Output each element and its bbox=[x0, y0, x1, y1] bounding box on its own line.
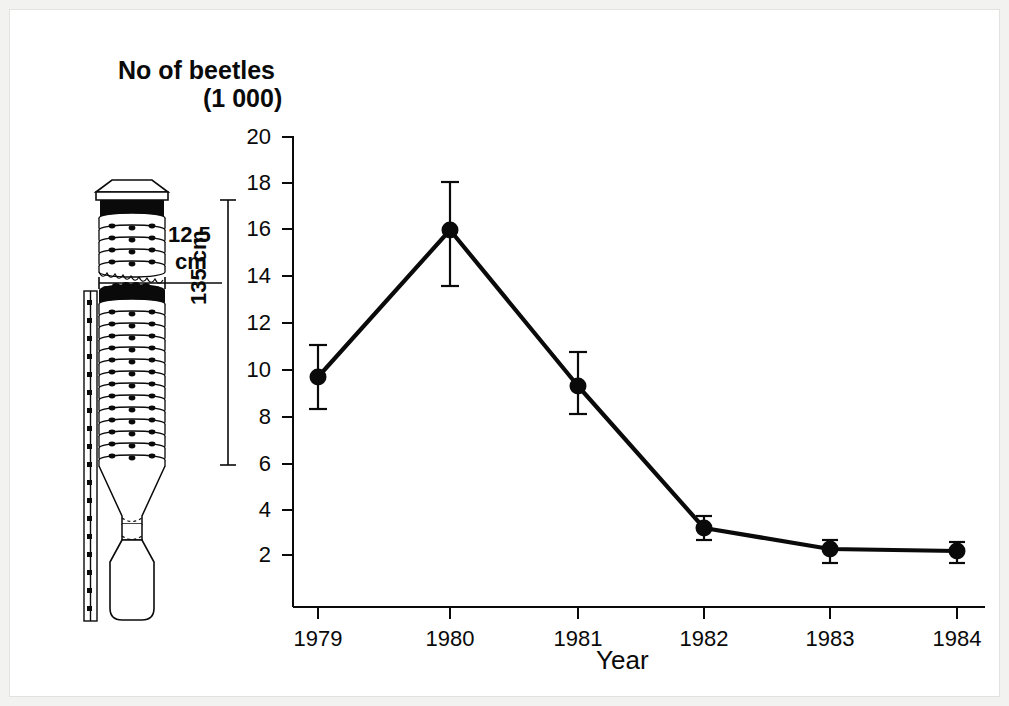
y-tick-label-20: 20 bbox=[231, 124, 271, 150]
trap-collecting-funnel bbox=[99, 466, 165, 524]
y-tick-label-14: 14 bbox=[231, 263, 271, 289]
data-point-1984 bbox=[949, 543, 966, 560]
series-markers bbox=[310, 222, 966, 560]
y-tick-label-18: 18 bbox=[231, 170, 271, 196]
y-tick-label-16: 16 bbox=[231, 216, 271, 242]
data-point-1983 bbox=[822, 541, 839, 558]
data-point-1979 bbox=[310, 369, 327, 386]
figure-canvas bbox=[0, 0, 1009, 706]
data-point-1982 bbox=[696, 520, 713, 537]
trap-upper-funnels bbox=[99, 213, 165, 277]
trap-height-label: 135 cm bbox=[186, 230, 212, 305]
x-tick-label-1984: 1984 bbox=[922, 626, 992, 652]
x-tick-label-1980: 1980 bbox=[415, 626, 485, 652]
figure-root: No of beetles (1 000) 20 18 16 14 12 10 … bbox=[0, 0, 1009, 706]
x-tick-label-1983: 1983 bbox=[795, 626, 865, 652]
series-line bbox=[318, 230, 957, 551]
y-tick-label-10: 10 bbox=[231, 357, 271, 383]
trap-lower-section bbox=[99, 282, 165, 620]
trap-diagram bbox=[84, 180, 236, 621]
trap-bottle-neck bbox=[122, 524, 142, 540]
y-tick-label-12: 12 bbox=[231, 310, 271, 336]
chart-axes bbox=[293, 136, 985, 607]
y-axis-title-line1: No of beetles bbox=[118, 56, 275, 85]
y-axis-title-line2: (1 000) bbox=[203, 84, 282, 113]
series-beetle-counts bbox=[309, 182, 966, 563]
data-point-1980 bbox=[442, 222, 459, 239]
x-tick-label-1979: 1979 bbox=[283, 626, 353, 652]
y-tick-label-8: 8 bbox=[231, 404, 271, 430]
x-tick-label-1982: 1982 bbox=[669, 626, 739, 652]
data-point-1981 bbox=[570, 378, 587, 395]
y-tick-label-2: 2 bbox=[231, 542, 271, 568]
x-axis-ticks bbox=[318, 607, 957, 619]
y-tick-label-4: 4 bbox=[231, 497, 271, 523]
error-bars bbox=[309, 182, 965, 563]
x-axis-title: Year bbox=[596, 645, 649, 676]
trap-upper-section bbox=[96, 180, 168, 283]
trap-collection-bottle bbox=[110, 540, 154, 620]
y-tick-label-6: 6 bbox=[231, 451, 271, 477]
y-axis-ticks bbox=[282, 137, 293, 555]
